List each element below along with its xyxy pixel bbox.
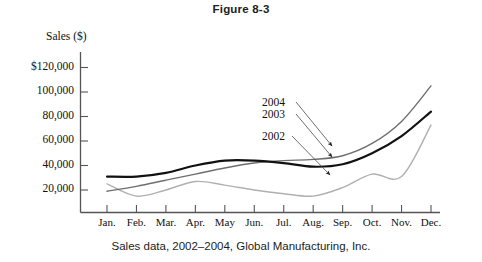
- x-tick-label: Dec.: [421, 216, 441, 228]
- x-tick-label: Jan.: [98, 216, 115, 228]
- leader-line-2003: [296, 114, 332, 157]
- x-tick-label: Sep.: [333, 216, 352, 228]
- figure-container: Figure 8-3 Sales ($) 20,00040,00060,0008…: [0, 0, 482, 262]
- x-tick-label: Apr.: [186, 216, 205, 228]
- series-label-2002: 2002: [262, 130, 285, 142]
- x-tick-label: Jun.: [245, 216, 263, 228]
- figure-caption: Sales data, 2002–2004, Global Manufactur…: [0, 240, 482, 252]
- y-tick-label-text: $120,000: [0, 60, 74, 72]
- y-tick-label-text: 80,000: [0, 109, 74, 121]
- series-line-2003: [107, 112, 431, 177]
- x-tick-label: Aug.: [302, 216, 324, 228]
- x-tick-label: Mar.: [156, 216, 176, 228]
- x-tick-label: Feb.: [127, 216, 146, 228]
- x-tick-label: Oct.: [363, 216, 382, 228]
- y-axis-ticks: [81, 68, 89, 191]
- y-tick-label-text: 60,000: [0, 133, 74, 145]
- x-axis-ticks: [107, 205, 431, 213]
- y-tick-label-text: 100,000: [0, 84, 74, 96]
- leader-line-2004: [296, 102, 332, 146]
- x-tick-label: Jul.: [276, 216, 292, 228]
- series-label-2003: 2003: [262, 108, 285, 120]
- x-tick-label: May: [215, 216, 235, 228]
- series-label-2004: 2004: [262, 96, 285, 108]
- y-tick-label-text: 40,000: [0, 158, 74, 170]
- y-tick-label-text: 20,000: [0, 182, 74, 194]
- x-tick-label: Nov.: [391, 216, 412, 228]
- leader-line-2002: [292, 136, 330, 175]
- axis-lines: [81, 52, 441, 213]
